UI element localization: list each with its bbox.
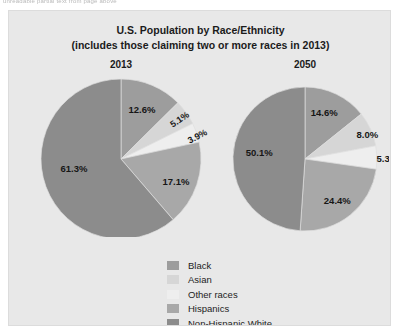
chart-title-line-1: U.S. Population by Race/Ethnicity: [116, 24, 284, 36]
pie-slice-label: 50.1%: [246, 147, 273, 158]
legend-item: Black: [167, 258, 272, 273]
pie-slice-label: 8.0%: [357, 129, 379, 140]
pie-chart-2013-graphic: 12.6%5.1%3.9%17.1%61.3%: [23, 77, 219, 237]
pie-chart-2050-graphic: 14.6%8.0%5.3%24.4%50.1%: [221, 77, 389, 237]
legend-item-label: Non-Hispanic White: [188, 318, 272, 326]
chart-title-line-2: (includes those claiming two or more rac…: [9, 38, 391, 53]
pie-chart-2013: 2013 12.6%5.1%3.9%17.1%61.3%: [23, 59, 219, 237]
pie-slice-label: 61.3%: [61, 163, 88, 174]
legend-item-label: Black: [188, 260, 211, 271]
pie-slice-label: 5.3%: [377, 153, 389, 164]
scan-artifact-text: unreadable partial text from page above: [3, 0, 117, 4]
pie-slice-label: 14.6%: [311, 107, 338, 118]
legend-swatch-icon: [167, 275, 179, 284]
chart-legend: BlackAsianOther racesHispanicsNon-Hispan…: [167, 258, 272, 326]
legend-item-label: Hispanics: [188, 303, 229, 314]
legend-swatch-icon: [167, 290, 179, 299]
pie-chart-2050: 2050 14.6%8.0%5.3%24.4%50.1%: [221, 59, 389, 237]
scan-artifact-strip: unreadable partial text from page above: [0, 0, 405, 8]
pie-slice-label: 24.4%: [324, 195, 351, 206]
pie-slice: [233, 87, 305, 231]
legend-item: Non-Hispanic White: [167, 316, 272, 326]
legend-swatch-icon: [167, 304, 179, 313]
pie-chart-2013-year: 2013: [23, 59, 219, 70]
legend-swatch-icon: [167, 319, 179, 326]
pie-chart-2050-year: 2050: [221, 59, 389, 70]
legend-item: Hispanics: [167, 302, 272, 317]
chart-panel: U.S. Population by Race/Ethnicity (inclu…: [8, 10, 391, 326]
chart-title: U.S. Population by Race/Ethnicity (inclu…: [9, 23, 391, 53]
pie-slice-label: 12.6%: [129, 104, 156, 115]
legend-item-label: Asian: [188, 274, 212, 285]
legend-item: Other races: [167, 287, 272, 302]
legend-swatch-icon: [167, 261, 179, 270]
legend-item: Asian: [167, 273, 272, 288]
pie-slice-label: 17.1%: [163, 176, 190, 187]
legend-item-label: Other races: [188, 289, 238, 300]
